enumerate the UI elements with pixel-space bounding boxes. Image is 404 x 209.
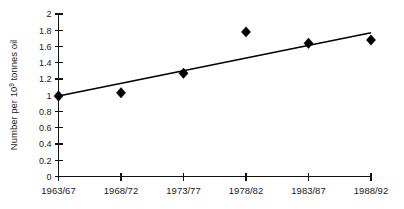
x-tick-label: 1988/92	[354, 185, 388, 196]
y-tick-label: 2	[46, 9, 51, 19]
x-tick-label: 1973/77	[166, 185, 200, 196]
x-tick-label: 1978/82	[229, 185, 263, 196]
y-axis-title: Number per 109 tonnes oil	[8, 40, 20, 150]
x-tick-label: 1983/87	[291, 185, 325, 196]
chart-background	[0, 0, 404, 209]
y-tick-label: 0.4	[39, 139, 52, 149]
y-tick-label: 0.8	[39, 107, 52, 117]
y-tick-label: 1.2	[39, 74, 52, 84]
x-tick-label: 1968/72	[104, 185, 138, 196]
chart-container: 00.20.40.60.811.21.41.61.82 1963/671968/…	[0, 0, 404, 209]
y-tick-label: 1.6	[39, 42, 52, 52]
x-tick-label: 1963/67	[41, 185, 75, 196]
y-tick-label: 1	[46, 91, 51, 101]
y-tick-label: 0.2	[39, 156, 52, 166]
scatter-chart: 00.20.40.60.811.21.41.61.82 1963/671968/…	[0, 0, 404, 209]
y-tick-label: 0.6	[39, 123, 52, 133]
y-tick-label: 0	[46, 172, 51, 182]
y-tick-label: 1.8	[39, 26, 52, 36]
y-tick-label: 1.4	[39, 58, 52, 68]
